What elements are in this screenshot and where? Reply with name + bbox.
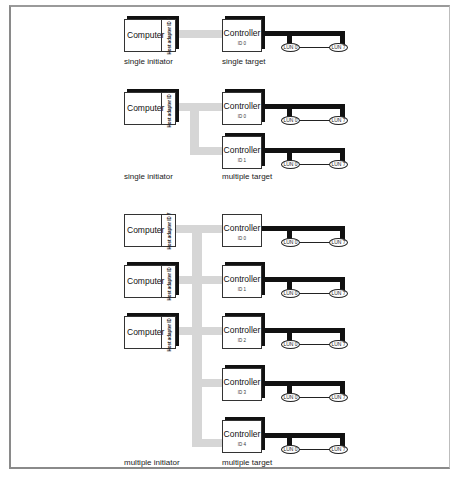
target-bus	[262, 31, 345, 36]
lun-0: LUN 0	[281, 289, 300, 298]
lun-7: LUN 7	[329, 340, 348, 349]
target-bus	[262, 226, 345, 231]
host-bus	[176, 225, 222, 233]
computer: Computer Host adapter ID 5	[124, 316, 176, 349]
lun-stub	[340, 433, 345, 446]
host-adapter: Host adapter ID 6	[161, 266, 175, 297]
host-adapter: Host adapter ID 5	[161, 317, 175, 348]
host-adapter: Host adapter ID 7	[161, 20, 175, 51]
lun-link	[299, 242, 330, 243]
lun-link	[299, 293, 330, 294]
controller: Controller ID 1	[222, 136, 262, 169]
target-bus	[262, 433, 345, 438]
controller: Controller ID 1	[222, 265, 262, 298]
lun-stub	[340, 31, 345, 44]
lun-link	[299, 164, 330, 165]
target-caption: multiple target	[222, 172, 272, 181]
lun-0: LUN 0	[281, 160, 300, 169]
lun-stub	[340, 104, 345, 117]
computer: Computer Host adapter ID 7	[124, 214, 176, 247]
controller: Controller ID 0	[222, 92, 262, 125]
target-bus	[262, 381, 345, 386]
controller: Controller ID 3	[222, 368, 262, 401]
controller: Controller ID 0	[222, 214, 262, 247]
target-bus	[262, 328, 345, 333]
computer-label: Computer	[127, 30, 164, 40]
computer: Computer Host adapter ID 7	[124, 19, 176, 52]
lun-0: LUN 0	[281, 43, 300, 52]
lun-7: LUN 7	[329, 238, 348, 247]
lun-link	[299, 47, 330, 48]
computer: Computer Host adapter ID 7	[124, 92, 176, 125]
lun-7: LUN 7	[329, 43, 348, 52]
lun-stub	[340, 277, 345, 290]
lun-7: LUN 7	[329, 160, 348, 169]
lun-7: LUN 7	[329, 393, 348, 402]
lun-0: LUN 0	[281, 116, 300, 125]
host-adapter: Host adapter ID 7	[161, 93, 175, 124]
host-bus	[192, 379, 222, 387]
host-bus	[192, 439, 222, 447]
lun-0: LUN 0	[281, 238, 300, 247]
initiator-caption: single initiator	[124, 172, 173, 181]
lun-0: LUN 0	[281, 340, 300, 349]
lun-stub	[340, 148, 345, 161]
lun-7: LUN 7	[329, 445, 348, 454]
target-bus	[262, 148, 345, 153]
host-bus-vertical	[192, 225, 202, 447]
target-bus	[262, 277, 345, 282]
initiator-caption: multiple initiator	[124, 458, 180, 467]
host-bus	[190, 147, 222, 155]
lun-link	[299, 397, 330, 398]
controller: Controller ID 2	[222, 316, 262, 349]
lun-7: LUN 7	[329, 289, 348, 298]
lun-7: LUN 7	[329, 116, 348, 125]
controller: Controller ID 4	[222, 420, 262, 453]
host-bus	[176, 30, 222, 38]
lun-0: LUN 0	[281, 393, 300, 402]
lun-stub	[340, 328, 345, 341]
computer: Computer Host adapter ID 6	[124, 265, 176, 298]
controller: Controller ID 0	[222, 19, 262, 52]
initiator-caption: single initiator	[124, 57, 173, 66]
host-bus	[176, 327, 222, 335]
host-bus	[176, 103, 222, 111]
lun-link	[299, 449, 330, 450]
host-adapter: Host adapter ID 7	[161, 215, 175, 246]
lun-stub	[340, 226, 345, 239]
lun-stub	[340, 381, 345, 394]
lun-0: LUN 0	[281, 445, 300, 454]
lun-link	[299, 120, 330, 121]
host-bus	[176, 276, 222, 284]
target-bus	[262, 104, 345, 109]
lun-link	[299, 344, 330, 345]
target-caption: single target	[222, 57, 266, 66]
target-caption: multiple target	[222, 458, 272, 467]
